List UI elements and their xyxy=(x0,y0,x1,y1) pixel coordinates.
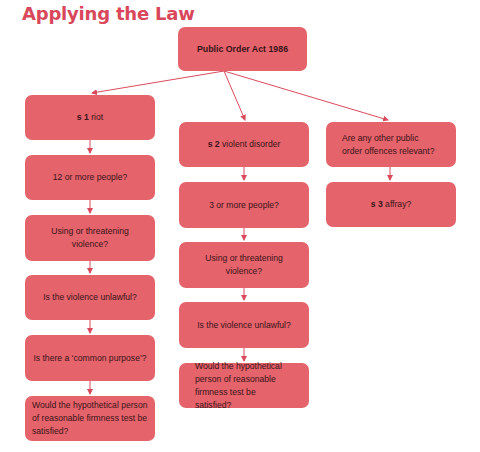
node-other-offences: Are any other public order offences rele… xyxy=(326,122,456,167)
node-label: Is the violence unlawful? xyxy=(43,291,137,304)
section-number: s 2 xyxy=(208,139,220,149)
node-label: 12 or more people? xyxy=(53,171,128,184)
node-label: Would the hypothetical person of reasona… xyxy=(195,360,293,412)
node-label: riot xyxy=(89,112,103,122)
node-vd-3-people: 3 or more people? xyxy=(179,182,309,228)
node-label: Would the hypothetical person of reasona… xyxy=(32,399,148,438)
node-label: violent disorder xyxy=(220,139,281,149)
node-public-order-act: Public Order Act 1986 xyxy=(178,27,307,71)
node-label: Is there a ‘common purpose’? xyxy=(33,352,146,365)
node-label: Using or threatening violence? xyxy=(33,225,147,251)
node-label: affray? xyxy=(383,199,412,209)
section-number: s 3 xyxy=(371,199,383,209)
node-label: Using or threatening violence? xyxy=(187,252,301,278)
node-vd-violence: Using or threatening violence? xyxy=(179,242,309,288)
node-riot-12-people: 12 or more people? xyxy=(25,155,155,200)
node-s3-affray: s 3 affray? xyxy=(326,182,456,227)
node-label: Public Order Act 1986 xyxy=(197,43,288,56)
node-riot-violence: Using or threatening violence? xyxy=(25,215,155,261)
node-vd-reasonable-firmness: Would the hypothetical person of reasona… xyxy=(179,363,309,408)
node-s1-riot: s 1 riot xyxy=(25,95,155,140)
node-vd-unlawful: Is the violence unlawful? xyxy=(179,302,309,348)
node-riot-reasonable-firmness: Would the hypothetical person of reasona… xyxy=(25,396,155,441)
section-number: s 1 xyxy=(77,112,89,122)
node-label: Is the violence unlawful? xyxy=(197,319,291,332)
node-riot-unlawful: Is the violence unlawful? xyxy=(25,275,155,320)
node-s2-violent-disorder: s 2 violent disorder xyxy=(179,122,309,167)
node-riot-common-purpose: Is there a ‘common purpose’? xyxy=(25,335,155,381)
node-label: Are any other public order offences rele… xyxy=(342,132,440,158)
node-label: 3 or more people? xyxy=(209,199,279,212)
